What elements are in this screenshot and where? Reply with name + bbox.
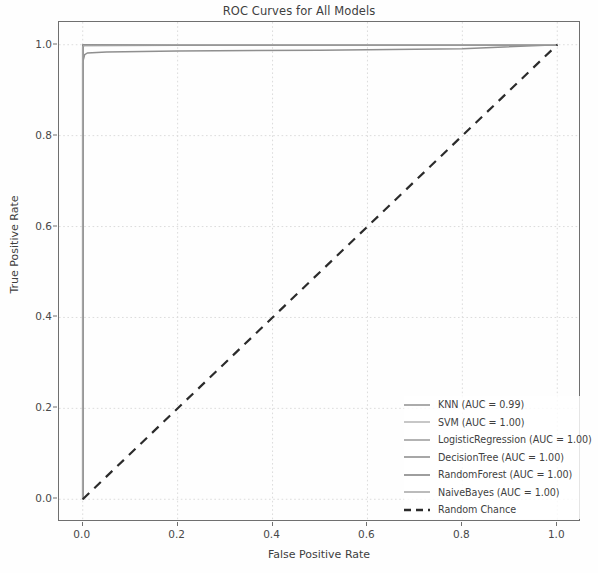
legend-item-label: LogisticRegression (AUC = 1.00) bbox=[438, 434, 592, 445]
y-tick-label: 1.0 bbox=[6, 38, 52, 50]
y-axis-label: True Positive Rate bbox=[8, 145, 21, 345]
legend-item[interactable]: RandomForest (AUC = 1.00) bbox=[404, 466, 580, 484]
x-axis-label: False Positive Rate bbox=[58, 548, 580, 561]
legend-line-swatch-icon bbox=[404, 417, 430, 427]
legend-item[interactable]: LogisticRegression (AUC = 1.00) bbox=[404, 431, 580, 449]
x-tick-label: 0.6 bbox=[336, 528, 396, 540]
y-tick-mark bbox=[53, 498, 57, 499]
legend-item[interactable]: SVM (AUC = 1.00) bbox=[404, 414, 580, 432]
legend-item[interactable]: DecisionTree (AUC = 1.00) bbox=[404, 449, 580, 467]
x-tick-mark bbox=[177, 522, 178, 526]
legend-line-swatch-icon bbox=[404, 487, 430, 497]
legend-line-swatch-icon bbox=[404, 470, 430, 480]
roc-curve-figure: ROC Curves for All Models 0.00.20.40.60.… bbox=[0, 0, 598, 573]
legend-item-label: NaiveBayes (AUC = 1.00) bbox=[438, 487, 560, 498]
legend-line-swatch-icon bbox=[404, 400, 430, 410]
y-tick-label: 0.2 bbox=[6, 401, 52, 413]
y-tick-label: 0.0 bbox=[6, 492, 52, 504]
legend-line-swatch-icon bbox=[404, 505, 430, 515]
legend-item-label: DecisionTree (AUC = 1.00) bbox=[438, 452, 564, 463]
legend-item-label: KNN (AUC = 0.99) bbox=[438, 399, 524, 410]
x-tick-label: 0.8 bbox=[431, 528, 491, 540]
x-tick-mark bbox=[556, 522, 557, 526]
x-tick-mark bbox=[366, 522, 367, 526]
chart-legend: KNN (AUC = 0.99)SVM (AUC = 1.00)Logistic… bbox=[404, 396, 580, 519]
page-title: ROC Curves for All Models bbox=[0, 4, 598, 18]
y-tick-label: 0.8 bbox=[6, 129, 52, 141]
x-axis-ticks: 0.00.20.40.60.81.0 bbox=[58, 528, 580, 544]
x-tick-mark bbox=[461, 522, 462, 526]
x-tick-mark bbox=[272, 522, 273, 526]
y-tick-mark bbox=[53, 43, 57, 44]
y-tick-mark bbox=[53, 316, 57, 317]
legend-item[interactable]: Random Chance bbox=[404, 501, 580, 519]
x-tick-label: 0.2 bbox=[147, 528, 207, 540]
legend-line-swatch-icon bbox=[404, 452, 430, 462]
y-tick-mark bbox=[53, 407, 57, 408]
x-tick-label: 0.0 bbox=[52, 528, 112, 540]
legend-item-label: Random Chance bbox=[438, 504, 516, 515]
legend-item[interactable]: KNN (AUC = 0.99) bbox=[404, 396, 580, 414]
x-tick-label: 0.4 bbox=[242, 528, 302, 540]
legend-item[interactable]: NaiveBayes (AUC = 1.00) bbox=[404, 484, 580, 502]
legend-item-label: RandomForest (AUC = 1.00) bbox=[438, 469, 572, 480]
x-tick-mark bbox=[82, 522, 83, 526]
y-tick-mark bbox=[53, 134, 57, 135]
x-tick-label: 1.0 bbox=[526, 528, 586, 540]
y-tick-mark bbox=[53, 225, 57, 226]
legend-item-label: SVM (AUC = 1.00) bbox=[438, 417, 524, 428]
legend-line-swatch-icon bbox=[404, 435, 430, 445]
